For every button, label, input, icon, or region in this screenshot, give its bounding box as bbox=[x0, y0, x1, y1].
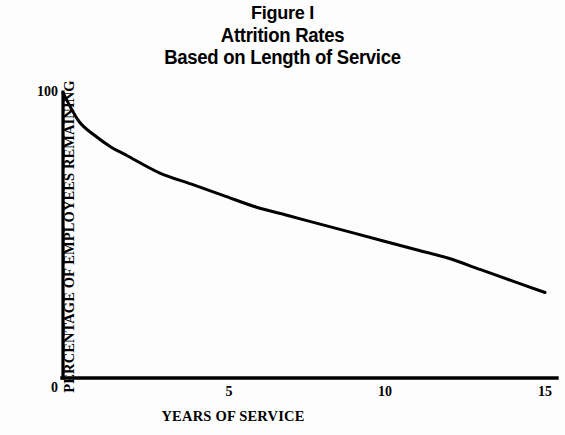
figure-root: Figure I Attrition Rates Based on Length… bbox=[0, 0, 565, 435]
x-axis-label: YEARS OF SERVICE bbox=[63, 408, 403, 425]
y-tick-label-100: 100 bbox=[26, 84, 58, 100]
attrition-plot bbox=[0, 0, 565, 435]
x-tick-label-15: 15 bbox=[529, 384, 561, 400]
y-tick-label-0: 0 bbox=[38, 380, 58, 396]
x-tick-label-10: 10 bbox=[369, 384, 401, 400]
y-axis-label: PERCENTAGE OF EMPLOYEES REMAINING bbox=[61, 72, 78, 402]
attrition-curve-line bbox=[63, 93, 545, 293]
x-tick-label-5: 5 bbox=[215, 384, 243, 400]
